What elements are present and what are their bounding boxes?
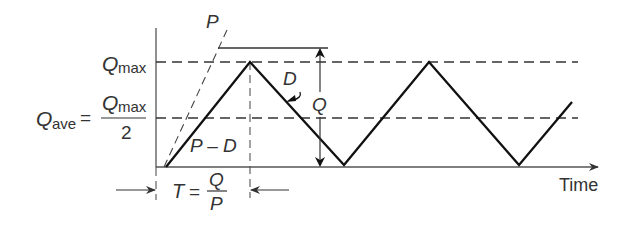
time-axis-label: Time	[559, 175, 598, 195]
period-denominator: P	[210, 193, 223, 214]
d-pointer-arrowhead	[286, 95, 296, 102]
period-equals: =	[189, 181, 200, 202]
qave-numerator-main: Q	[102, 91, 118, 114]
p-minus-d-label: P – D	[190, 135, 237, 156]
p-label: P	[206, 11, 219, 32]
inventory-cycle-diagram: P D Q P – D Time Q max Q ave = Q max 2 T…	[0, 0, 628, 233]
qmax-label-main: Q	[102, 52, 118, 75]
period-numerator: Q	[209, 169, 224, 190]
d-label: D	[283, 68, 297, 89]
qmax-label-sub: max	[118, 59, 147, 76]
qave-label-sub: ave	[52, 115, 76, 132]
qave-equals: =	[80, 107, 91, 128]
qave-numerator-sub: max	[118, 98, 147, 115]
qave-label-main: Q	[36, 107, 52, 130]
period-t-label: T	[172, 180, 186, 202]
qave-denominator: 2	[121, 122, 132, 143]
q-label: Q	[312, 94, 327, 115]
